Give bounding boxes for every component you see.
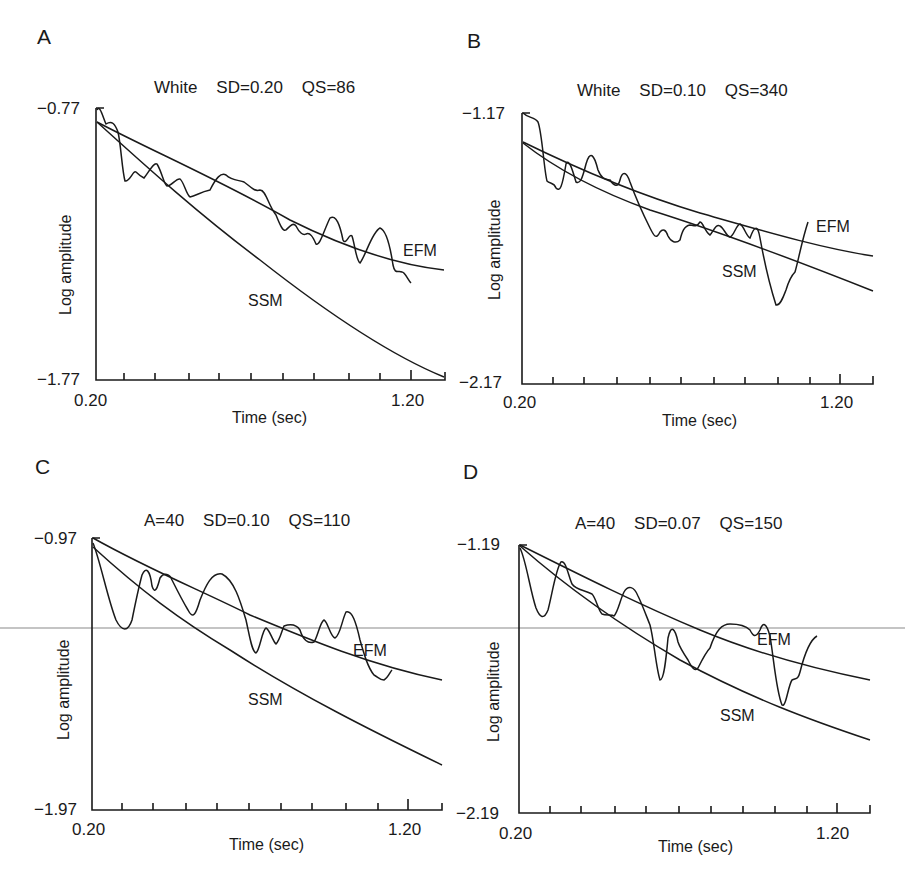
panel-title: A=40 SD=0.10 QS=110 <box>144 511 350 530</box>
x-right-label: 1.20 <box>816 824 849 843</box>
observed-curve <box>523 113 808 305</box>
x-left-label: 0.20 <box>74 391 107 410</box>
panel-letter: A <box>37 25 51 48</box>
axes <box>96 108 445 380</box>
y-axis-label: Log amplitude <box>485 641 502 742</box>
ssm-label: SSM <box>248 292 283 309</box>
panel-letter: B <box>467 29 481 52</box>
ssm-label: SSM <box>720 707 755 724</box>
x-right-label: 1.20 <box>388 820 421 839</box>
efm-label: EFM <box>353 642 387 659</box>
x-left-label: 0.20 <box>72 820 105 839</box>
x-left-label: 0.20 <box>503 393 536 412</box>
y-axis-label: Log amplitude <box>55 639 72 740</box>
panel-letter: D <box>463 460 478 483</box>
axes <box>519 545 870 813</box>
y-axis-label: Log amplitude <box>57 214 74 315</box>
panel-b: B White SD=0.10 QS=340 −1.17 −2.17 0.20 … <box>459 29 873 429</box>
panel-d: D A=40 SD=0.07 QS=150 −1.19 −2.19 0.20 1… <box>456 460 870 855</box>
y-bottom-label: −1.97 <box>34 800 77 819</box>
efm-label: EFM <box>816 218 850 235</box>
y-top-label: −1.19 <box>457 535 500 554</box>
axes <box>522 113 873 384</box>
y-top-label: −0.97 <box>34 529 77 548</box>
panel-a: A White SD=0.20 QS=86 −0.77 −1.77 0.20 1… <box>37 25 445 426</box>
ssm-label: SSM <box>248 691 283 708</box>
y-top-label: −0.77 <box>37 99 80 118</box>
x-axis-label: Time (sec) <box>658 838 733 855</box>
panel-c: C A=40 SD=0.10 QS=110 −0.97 −1.97 0.20 1… <box>34 455 442 853</box>
efm-curve <box>93 538 442 680</box>
x-right-label: 1.20 <box>391 391 424 410</box>
panel-letter: C <box>35 455 50 478</box>
x-left-label: 0.20 <box>499 824 532 843</box>
efm-label: EFM <box>757 631 791 648</box>
ssm-label: SSM <box>722 263 757 280</box>
efm-label: EFM <box>403 242 437 259</box>
ssm-curve <box>97 122 444 377</box>
efm-curve <box>97 122 444 270</box>
ssm-curve <box>523 143 873 291</box>
y-top-label: −1.17 <box>462 104 505 123</box>
panel-title: White SD=0.20 QS=86 <box>154 78 355 97</box>
y-bottom-label: −2.17 <box>459 373 502 392</box>
ssm-curve <box>93 547 442 765</box>
y-bottom-label: −2.19 <box>456 804 499 823</box>
x-axis-label: Time (sec) <box>229 836 304 853</box>
panel-title: White SD=0.10 QS=340 <box>577 81 788 100</box>
x-right-label: 1.20 <box>820 393 853 412</box>
x-axis-label: Time (sec) <box>662 412 737 429</box>
observed-curve <box>520 548 817 705</box>
efm-curve <box>523 142 873 256</box>
y-axis-label: Log amplitude <box>486 199 503 300</box>
efm-curve <box>520 545 870 680</box>
panel-title: A=40 SD=0.07 QS=150 <box>575 514 782 533</box>
observed-curve <box>97 109 411 283</box>
y-bottom-label: −1.77 <box>37 370 80 389</box>
ssm-curve <box>520 546 870 740</box>
x-axis-label: Time (sec) <box>232 409 307 426</box>
